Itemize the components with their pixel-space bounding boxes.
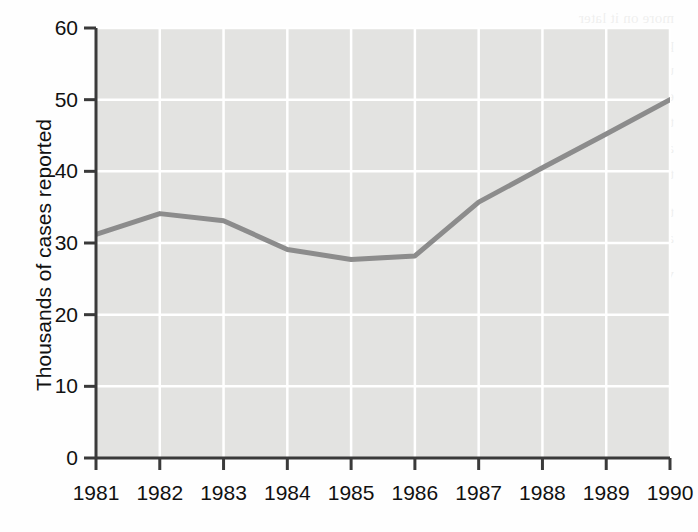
x-axis-tick-label: 1983	[200, 482, 247, 503]
x-axis-tick-label: 1989	[583, 482, 630, 503]
y-axis-tick-label: 50	[55, 89, 78, 110]
y-axis-tick-label: 30	[55, 232, 78, 253]
x-axis-tick-label: 1984	[264, 482, 311, 503]
chart-figure: more on it later phrases are more flexib…	[0, 0, 698, 532]
x-axis-tick-label: 1986	[392, 482, 439, 503]
y-axis-tick-label: 10	[55, 375, 78, 396]
x-axis-tick-label: 1990	[647, 482, 694, 503]
y-axis-tick-label: 40	[55, 160, 78, 181]
x-axis-tick-label: 1985	[328, 482, 375, 503]
line-chart-plot	[0, 0, 698, 532]
y-axis-tick-label: 60	[55, 17, 78, 38]
x-axis-tick-label: 1987	[455, 482, 502, 503]
y-axis-tick-label: 0	[66, 447, 78, 468]
y-axis-title: Thousands of cases reported	[32, 105, 56, 405]
x-axis-tick-label: 1982	[136, 482, 183, 503]
x-axis-tick-label: 1981	[73, 482, 120, 503]
x-axis-tick-label: 1988	[519, 482, 566, 503]
y-axis-tick-label: 20	[55, 304, 78, 325]
